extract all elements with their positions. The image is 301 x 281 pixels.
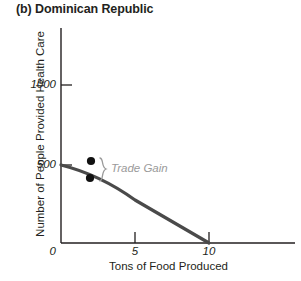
y-axis-title: Number of People Provided Health Care — [34, 27, 46, 242]
x-tick-label-5: 5 — [122, 245, 148, 257]
trade-gain-brace-icon — [100, 158, 106, 181]
data-point-consumption — [87, 157, 95, 165]
ppf-curve — [61, 165, 209, 243]
trade-gain-label: Trade Gain — [111, 162, 168, 174]
x-axis-title: Tons of Food Produced — [61, 260, 276, 272]
chart-figure: (b) Dominican Republic Number of People … — [0, 0, 301, 281]
y-tick-label-500: 500 — [12, 158, 56, 170]
x-tick-label-10: 10 — [196, 245, 222, 257]
data-point-production — [86, 174, 94, 182]
y-tick-label-1000: 1000 — [12, 78, 56, 90]
y-tick-label-0: 0 — [12, 245, 56, 257]
